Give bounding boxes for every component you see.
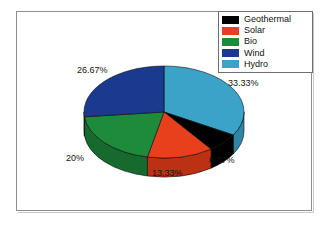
pie-label-geothermal: 6.67% [209,155,235,165]
legend-swatch-icon [222,27,239,35]
legend-item-label: Solar [244,26,265,35]
pie-slices [84,66,244,158]
legend-item-label: Hydro [244,60,268,69]
pie-label-wind: 26.67% [77,65,108,75]
pie-label-solar: 13.33% [152,168,183,178]
legend-item-label: Bio [244,37,257,46]
legend-item[interactable]: Bio [222,36,310,47]
pie-label-hydro: 33.33% [228,78,259,88]
legend-item[interactable]: Wind [222,48,310,59]
legend-swatch-icon [222,38,239,46]
legend-swatch-icon [222,49,239,57]
legend-item-label: Wind [244,49,265,58]
pie-label-bio: 20% [66,153,84,163]
chart-screenshot: 26.67% 33.33% 20% 13.33% 6.67% Geotherma… [0,0,330,233]
legend-item[interactable]: Hydro [222,59,310,70]
chart-legend: GeothermalSolarBioWindHydro [218,11,313,73]
legend-swatch-icon [222,60,239,68]
legend-swatch-icon [222,16,239,24]
legend-item-label: Geothermal [244,15,291,24]
legend-item[interactable]: Geothermal [222,14,310,25]
legend-item[interactable]: Solar [222,25,310,36]
